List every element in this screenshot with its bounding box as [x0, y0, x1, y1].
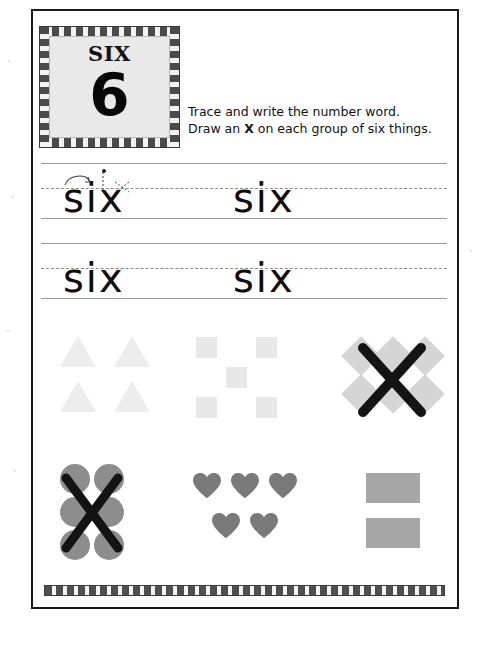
heart-shape [268, 472, 298, 499]
traced-word-r2-c2[interactable]: six [233, 258, 295, 298]
circle-shape [60, 530, 90, 560]
circle-shape [94, 530, 124, 560]
print-speckle [470, 250, 472, 252]
square-shape [196, 397, 217, 418]
worksheet-page: SIX 6 Trace and write the number word. D… [0, 0, 486, 648]
square-shape [256, 397, 277, 418]
instructions-text: Trace and write the number word. Draw an… [188, 103, 438, 137]
traced-word-r2-c1[interactable]: six [63, 258, 125, 298]
bottom-decorative-border [44, 585, 445, 596]
triangle-shape [60, 381, 96, 412]
heart-shape [211, 512, 241, 539]
shape-group-rectangles[interactable] [366, 473, 426, 553]
print-speckle [14, 470, 16, 472]
rule-top-line [41, 243, 447, 244]
stroke-guide-arrows-r1-c1 [59, 168, 143, 196]
number-digit-label: 6 [89, 68, 129, 123]
traced-word-r1-c2[interactable]: six [233, 178, 295, 218]
square-shape [196, 337, 217, 358]
circle-shape [60, 464, 90, 494]
print-speckle [7, 330, 9, 332]
circle-shape [94, 497, 124, 527]
instruction-line-2: Draw an X on each group of six things. [188, 120, 438, 137]
square-shape [226, 367, 247, 388]
shape-group-triangles[interactable] [60, 336, 180, 426]
instruction-line-2-after: on each group of six things. [254, 121, 432, 136]
instruction-line-2-before: Draw an [188, 121, 244, 136]
heart-shape [249, 512, 279, 539]
shape-group-hearts[interactable] [192, 472, 302, 552]
rectangle-shape [366, 518, 420, 548]
triangle-shape [114, 336, 150, 367]
rectangle-shape [366, 473, 420, 503]
print-speckle [8, 60, 10, 62]
heart-shape [230, 472, 260, 499]
shape-group-diamonds[interactable] [345, 336, 453, 426]
print-speckle [12, 196, 14, 198]
instruction-x-glyph: X [244, 121, 254, 136]
number-card-inner: SIX 6 [49, 36, 170, 138]
circle-shape [94, 464, 124, 494]
diamond-shape [405, 374, 445, 414]
shape-group-squares[interactable] [196, 337, 306, 427]
shape-group-circles[interactable] [60, 464, 140, 564]
triangle-shape [114, 381, 150, 412]
number-card: SIX 6 [39, 26, 180, 148]
instruction-line-1: Trace and write the number word. [188, 103, 438, 120]
heart-shape [192, 472, 222, 499]
triangle-shape [60, 336, 96, 367]
circle-shape [60, 497, 90, 527]
square-shape [256, 337, 277, 358]
rule-top-line [41, 163, 447, 164]
diamond-shape [405, 336, 445, 376]
